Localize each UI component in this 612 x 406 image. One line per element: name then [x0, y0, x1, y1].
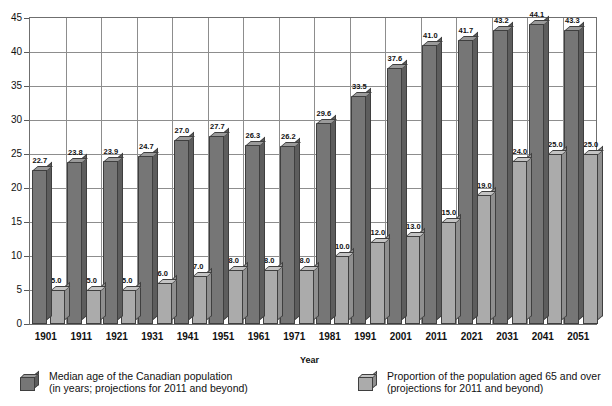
bar-face — [121, 290, 136, 324]
bar-value-label: 43.2 — [494, 17, 509, 25]
bar-value-label: 19.0 — [477, 182, 492, 190]
bar-face — [86, 290, 101, 324]
bar-side — [47, 161, 52, 320]
bar-value-label: 5.0 — [51, 277, 61, 285]
bar-side — [189, 132, 194, 320]
bar-side — [598, 146, 603, 320]
bar-proportion-65-plus — [228, 270, 243, 324]
bar-proportion-65-plus — [157, 283, 172, 324]
bar-proportion-65-plus — [50, 290, 65, 324]
bar-value-label: 25.0 — [548, 141, 563, 149]
y-axis-tick-label: 30 — [0, 115, 22, 125]
swatch-face — [20, 377, 35, 391]
legend-label: Median age of the Canadian population(in… — [49, 370, 248, 394]
legend-item: Median age of the Canadian population(in… — [20, 370, 248, 394]
bar-value-label: 43.3 — [565, 17, 580, 25]
bar-side — [331, 115, 336, 320]
bar-proportion-65-plus — [583, 154, 598, 324]
x-axis-tick-label: 2011 — [416, 331, 456, 342]
bar-side — [420, 227, 425, 320]
bar-side — [579, 21, 584, 320]
bar-value-label: 8.0 — [300, 257, 310, 265]
x-axis-tick-label: 2001 — [381, 331, 421, 342]
bar-value-label: 5.0 — [87, 277, 97, 285]
legend-label-line2: (in years; projections for 2011 and beyo… — [49, 382, 248, 394]
bar-face — [263, 270, 278, 324]
bar-value-label: 26.3 — [246, 132, 261, 140]
bar-proportion-65-plus — [476, 195, 491, 324]
bar-proportion-65-plus — [121, 290, 136, 324]
bar-side — [153, 148, 158, 320]
x-axis-tick-label: 1921 — [97, 331, 137, 342]
x-axis-tick-label: 1951 — [203, 331, 243, 342]
x-axis-title: Year — [300, 355, 319, 365]
legend-label: Proportion of the population aged 65 and… — [387, 370, 601, 394]
bar-value-label: 5.0 — [122, 277, 132, 285]
x-axis-tick-label: 2051 — [558, 331, 598, 342]
bar-face — [157, 283, 172, 324]
x-axis-tick-label: 1991 — [345, 331, 385, 342]
bar-face — [32, 170, 47, 324]
bar-value-label: 8.0 — [229, 257, 239, 265]
y-axis-tick-label: 5 — [0, 285, 22, 295]
bar-side — [562, 146, 567, 320]
x-axis-tick-label: 2031 — [487, 331, 527, 342]
bar-proportion-65-plus — [441, 222, 456, 324]
bar-face — [299, 270, 314, 324]
bar-proportion-65-plus — [86, 290, 101, 324]
bar-value-label: 24.0 — [513, 148, 528, 156]
bar-face — [547, 154, 562, 324]
bar-face — [512, 161, 527, 324]
bar-value-label: 33.5 — [352, 83, 367, 91]
bar-median-age — [32, 170, 47, 324]
bar-face — [476, 195, 491, 324]
bar-side — [295, 138, 300, 320]
bar-value-label: 24.7 — [139, 143, 154, 151]
legend-label-line2: (projections for 2011 and beyond) — [387, 382, 601, 394]
bar-side — [527, 153, 532, 320]
bar-side — [385, 234, 390, 320]
bar-value-label: 7.0 — [193, 263, 203, 271]
bar-face — [334, 256, 349, 324]
bar-face — [370, 242, 385, 324]
bar-face — [441, 222, 456, 324]
bar-proportion-65-plus — [299, 270, 314, 324]
swatch-side — [373, 370, 377, 387]
y-axis-tick-label: 40 — [0, 47, 22, 57]
legend-label-line1: Median age of the Canadian population — [49, 370, 248, 382]
bar-value-label: 13.0 — [406, 223, 421, 231]
x-axis-tick-label: 1971 — [274, 331, 314, 342]
bar-side — [118, 153, 123, 320]
plot-area: 25.043.325.044.124.043.219.041.715.041.0… — [29, 17, 597, 325]
y-axis-tick-label: 25 — [0, 149, 22, 159]
bar-value-label: 12.0 — [371, 229, 386, 237]
bar-side — [491, 187, 496, 320]
bar-value-label: 15.0 — [442, 209, 457, 217]
bar-value-label: 8.0 — [264, 257, 274, 265]
bar-side — [260, 137, 265, 320]
swatch-face — [358, 377, 373, 391]
bar-side — [224, 127, 229, 320]
x-axis-tick-label: 1931 — [132, 331, 172, 342]
bar-value-label: 41.0 — [423, 32, 438, 40]
y-axis-tick-label: 45 — [0, 13, 22, 23]
bar-proportion-65-plus — [263, 270, 278, 324]
bar-proportion-65-plus — [512, 161, 527, 324]
bar-side — [402, 60, 407, 320]
y-axis-tick-label: 35 — [0, 81, 22, 91]
bar-face — [228, 270, 243, 324]
legend-item: Proportion of the population aged 65 and… — [358, 370, 601, 394]
x-axis-tick-label: 1961 — [239, 331, 279, 342]
x-axis-tick-label: 1981 — [310, 331, 350, 342]
x-axis-tick-label: 2021 — [452, 331, 492, 342]
bar-proportion-65-plus — [370, 242, 385, 324]
bar-face — [50, 290, 65, 324]
y-axis-tick-label: 0 — [0, 319, 22, 329]
bar-value-label: 23.8 — [68, 149, 83, 157]
bar-value-label: 22.7 — [33, 157, 48, 165]
bar-side — [544, 16, 549, 320]
bar-side — [456, 214, 461, 320]
x-axis-tick-label: 1941 — [168, 331, 208, 342]
x-axis-tick-label: 2041 — [523, 331, 563, 342]
bar-face — [192, 276, 207, 324]
